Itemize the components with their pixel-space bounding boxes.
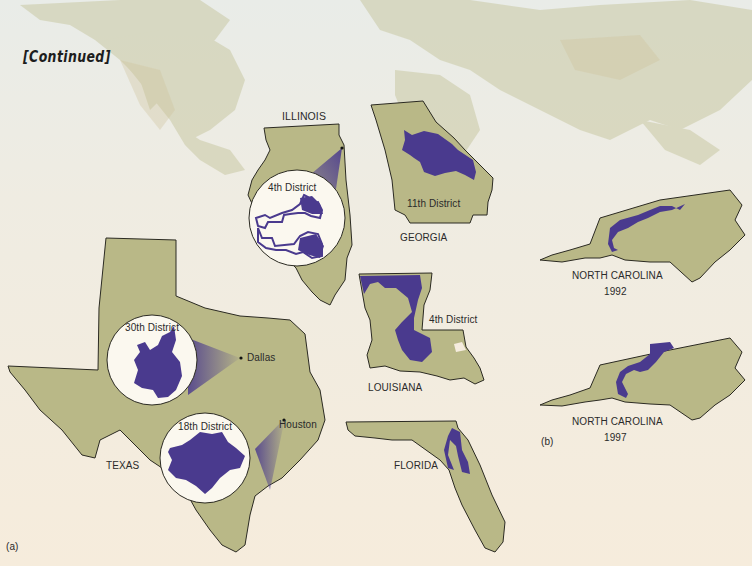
panel-label-b: (b) bbox=[541, 436, 554, 447]
state-label-louisiana: LOUISIANA bbox=[368, 382, 422, 393]
district-label-tx-18th: 18th District bbox=[178, 421, 232, 432]
nc-1992-map bbox=[540, 190, 745, 282]
state-label-nc-1992: NORTH CAROLINA bbox=[572, 270, 663, 281]
district-label-il-4th: 4th District bbox=[268, 182, 316, 193]
state-label-georgia: GEORGIA bbox=[400, 232, 447, 243]
year-label-1992: 1992 bbox=[604, 286, 627, 297]
state-label-nc-1997: NORTH CAROLINA bbox=[572, 416, 663, 427]
district-label-ga-11th: 11th District bbox=[407, 198, 460, 209]
district-label-tx-30th: 30th District bbox=[125, 322, 179, 333]
florida-map bbox=[346, 421, 505, 552]
texas-map bbox=[8, 238, 325, 552]
city-label-dallas: Dallas bbox=[247, 352, 275, 363]
louisiana-map bbox=[359, 273, 484, 384]
district-label-la-4th: 4th District bbox=[429, 314, 477, 325]
city-label-houston: Houston bbox=[279, 419, 317, 430]
district-maps bbox=[0, 0, 752, 566]
state-label-florida: FLORIDA bbox=[394, 460, 438, 471]
illinois-map bbox=[248, 124, 352, 305]
panel-label-a: (a) bbox=[6, 541, 19, 552]
year-label-1997: 1997 bbox=[604, 432, 627, 443]
state-label-texas: TEXAS bbox=[106, 460, 139, 471]
state-label-illinois: ILLINOIS bbox=[282, 110, 326, 122]
nc-1997-map bbox=[540, 338, 745, 420]
